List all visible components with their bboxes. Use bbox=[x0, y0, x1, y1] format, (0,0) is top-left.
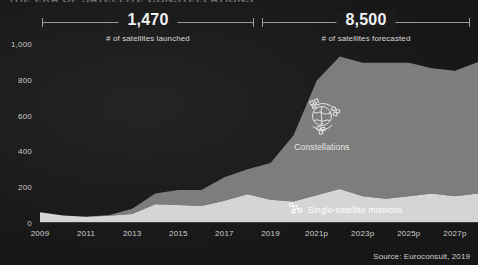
x-axis-tick: 2023p bbox=[351, 229, 374, 238]
y-axis-tick: 0 bbox=[27, 219, 32, 228]
annotation-caption-forecasted: # of satellites forecasted bbox=[322, 34, 411, 43]
series-label-single-satellite: Single-satellite missions bbox=[308, 205, 402, 215]
source-attribution: Source: Euroconsult, 2019 bbox=[373, 252, 470, 261]
plot-area bbox=[40, 44, 478, 223]
x-axis-tick: 2013 bbox=[123, 229, 142, 238]
annotation-value-launched: 1,470 bbox=[118, 11, 177, 29]
area-series-constellations bbox=[40, 57, 478, 217]
annotation-bracket-launched: 1,470 # of satellites launched bbox=[42, 17, 254, 28]
y-axis-tick: 400 bbox=[18, 147, 32, 156]
bracket-cap-left bbox=[42, 18, 43, 27]
single-satellite-icon bbox=[288, 200, 303, 219]
x-axis-tick: 2025p bbox=[397, 229, 420, 238]
stacked-area-chart bbox=[40, 44, 478, 223]
y-axis-tick: 600 bbox=[18, 111, 32, 120]
annotation-caption-launched: # of satellites launched bbox=[106, 34, 190, 43]
annotation-bracket-forecasted: 8,500 # of satellites forecasted bbox=[262, 17, 470, 28]
bracket-cap-right bbox=[469, 18, 470, 27]
bracket-cap-left bbox=[262, 18, 263, 27]
x-axis-tick: 2009 bbox=[31, 229, 50, 238]
annotation-value-forecasted: 8,500 bbox=[336, 11, 395, 29]
x-axis-tick: 2011 bbox=[77, 229, 95, 238]
x-axis-tick: 2017 bbox=[215, 229, 234, 238]
bracket-cap-right bbox=[253, 18, 254, 27]
satellite-constellation-globe-icon bbox=[299, 95, 345, 141]
series-label-constellations: Constellations bbox=[294, 142, 350, 152]
x-axis-tick: 2021p bbox=[305, 229, 328, 238]
y-axis-tick: 800 bbox=[18, 75, 32, 84]
y-axis-tick: 1,000 bbox=[11, 40, 32, 49]
x-axis-tick: 2015 bbox=[169, 229, 188, 238]
series-legend-single-satellite: Single-satellite missions bbox=[288, 200, 402, 219]
x-axis-tick: 2027p bbox=[443, 229, 466, 238]
page-title: THE ERA OF SATELLITE CONSTELLATIONS bbox=[8, 0, 253, 2]
x-axis-tick: 2019 bbox=[261, 229, 280, 238]
chart-infographic: THE ERA OF SATELLITE CONSTELLATIONS 1,47… bbox=[0, 0, 478, 265]
y-axis-tick: 200 bbox=[18, 183, 32, 192]
x-axis-line bbox=[40, 222, 478, 223]
